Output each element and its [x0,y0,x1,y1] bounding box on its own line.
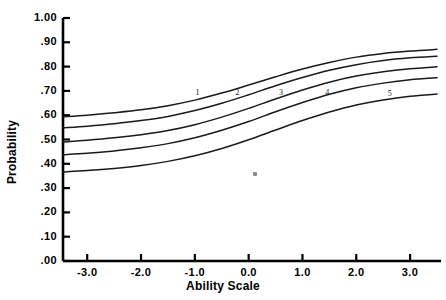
curve-label-1: 1 [193,88,203,97]
y-tick-label: .90 [13,35,57,47]
curve-label-4: 4 [322,88,332,97]
y-tick-label: .70 [13,84,57,96]
curve-4 [63,78,437,155]
x-tick-label: 2.0 [336,266,376,278]
x-tick-label: -2.0 [121,266,161,278]
curve-label-2: 2 [232,88,242,97]
y-tick-label: .20 [13,205,57,217]
y-tick-label: .40 [13,157,57,169]
x-tick-label: 1.0 [282,266,322,278]
y-tick-label: .00 [13,254,57,266]
curve-3 [63,67,437,142]
curve-5 [63,94,437,172]
y-tick-label: .30 [13,181,57,193]
chart-plot-area [0,0,446,300]
y-tick-label: .80 [13,60,57,72]
curve-2 [63,56,437,128]
curves-group [63,49,437,172]
y-tick-label: .10 [13,230,57,242]
tick-marks-group [63,18,410,261]
scan-speck-artifact [253,172,257,176]
x-tick-label: -3.0 [67,266,107,278]
y-tick-label: .60 [13,108,57,120]
curve-label-3: 3 [276,88,286,97]
x-tick-label: 0.0 [229,266,269,278]
curve-label-5: 5 [385,89,395,98]
x-axis-title: Ability Scale [0,279,446,293]
y-tick-label: .50 [13,133,57,145]
axes-group [63,18,441,261]
y-axis-title: Probability [5,102,19,202]
x-tick-label: -1.0 [175,266,215,278]
x-tick-label: 3.0 [390,266,430,278]
y-tick-label: 1.00 [13,11,57,23]
chart-container: 1.00.90.80.70.60.50.40.30.20.10.00 -3.0-… [0,0,446,300]
